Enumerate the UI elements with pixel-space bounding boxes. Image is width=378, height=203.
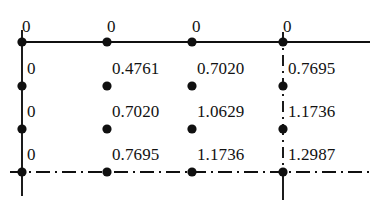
grid-node-dot bbox=[187, 167, 196, 176]
grid-node-dot bbox=[102, 37, 111, 46]
grid-node-dot bbox=[102, 81, 111, 90]
grid-node-dot bbox=[102, 124, 111, 133]
node-value-label: 1.0629 bbox=[197, 103, 244, 120]
grid-node-dot bbox=[278, 167, 287, 176]
node-value-label: 0.7020 bbox=[112, 103, 159, 120]
figure-canvas: 000000.47610.70200.769500.70201.06291.17… bbox=[0, 0, 378, 203]
grid-node-dot bbox=[278, 81, 287, 90]
grid-node-dot bbox=[17, 81, 26, 90]
grid-node-dot bbox=[187, 124, 196, 133]
node-value-label: 0 bbox=[27, 60, 36, 77]
grid-node-dot bbox=[278, 124, 287, 133]
grid-node-dot bbox=[17, 167, 26, 176]
grid-node-dot bbox=[102, 167, 111, 176]
grid-node-dot bbox=[17, 124, 26, 133]
node-value-label: 0.7020 bbox=[197, 60, 244, 77]
node-value-label: 0.4761 bbox=[112, 60, 159, 77]
grid-node-dot bbox=[187, 81, 196, 90]
node-value-label: 0.7695 bbox=[288, 60, 335, 77]
node-value-label: 0 bbox=[283, 18, 292, 35]
node-value-label: 1.2987 bbox=[288, 146, 335, 163]
grid-node-dot bbox=[187, 37, 196, 46]
node-value-label: 0.7695 bbox=[112, 146, 159, 163]
node-value-label: 0 bbox=[107, 18, 116, 35]
node-value-label: 1.1736 bbox=[197, 146, 244, 163]
node-value-label: 0 bbox=[192, 18, 201, 35]
node-value-label: 0 bbox=[22, 18, 31, 35]
node-value-label: 0 bbox=[27, 103, 36, 120]
grid-node-dot bbox=[278, 37, 287, 46]
node-value-label: 0 bbox=[27, 146, 36, 163]
grid-node-dot bbox=[17, 37, 26, 46]
node-value-label: 1.1736 bbox=[288, 103, 335, 120]
